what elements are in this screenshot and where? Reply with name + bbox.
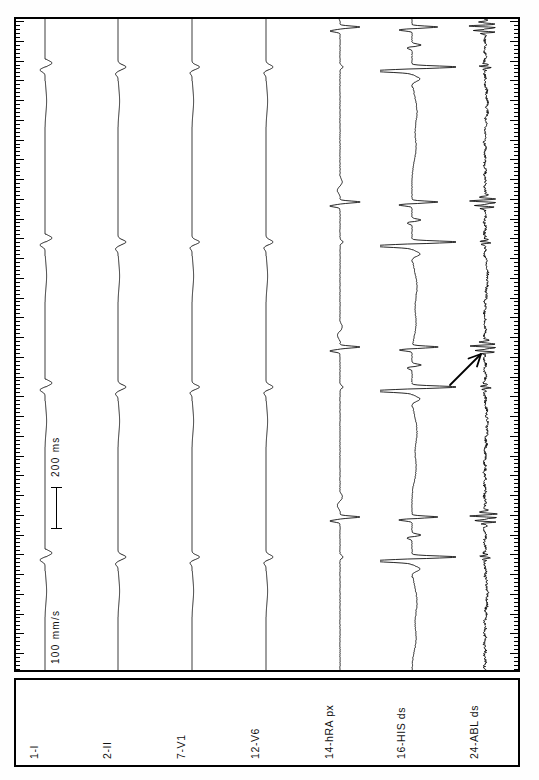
ruler-tick [514, 621, 518, 622]
trace-path-ch4 [264, 19, 273, 670]
ruler-tick [510, 199, 518, 200]
ruler-tick [514, 562, 518, 563]
ruler-tick [510, 416, 518, 417]
ruler-tick [514, 369, 518, 370]
ruler-tick [514, 479, 518, 480]
ruler-tick [514, 523, 518, 524]
ruler-tick [514, 266, 518, 267]
ruler-tick [514, 412, 518, 413]
trace-lane-ch6 [380, 19, 456, 670]
ruler-tick [514, 341, 518, 342]
ruler-tick [514, 373, 518, 374]
time-scale-bar [56, 487, 57, 529]
ruler-tick [514, 286, 518, 287]
ruler-tick [514, 384, 518, 385]
ruler-tick [514, 602, 518, 603]
ruler-tick [514, 329, 518, 330]
ruler-tick [514, 519, 518, 520]
ruler-tick [514, 175, 518, 176]
ruler-tick [510, 515, 518, 516]
ruler-tick [514, 546, 518, 547]
ruler-tick [510, 278, 518, 279]
ruler-tick [514, 151, 518, 152]
ruler-tick [514, 222, 518, 223]
ruler-tick [514, 88, 518, 89]
ruler-tick [514, 25, 518, 26]
ruler-tick [514, 305, 518, 306]
ruler-tick [510, 377, 518, 378]
ruler-tick [514, 262, 518, 263]
trace-lane-ch3 [164, 19, 226, 670]
ruler-tick [510, 100, 518, 101]
ruler-tick [514, 226, 518, 227]
ruler-tick [514, 155, 518, 156]
ruler-tick [514, 246, 518, 247]
ruler-tick [514, 96, 518, 97]
ruler-tick [514, 503, 518, 504]
ruler-tick [514, 606, 518, 607]
ruler-tick [514, 590, 518, 591]
ruler-tick [514, 610, 518, 611]
ruler-tick [514, 566, 518, 567]
ruler-tick [514, 669, 518, 670]
ruler-tick [514, 215, 518, 216]
ruler-tick [514, 649, 518, 650]
ruler-tick [514, 617, 518, 618]
ruler-tick [514, 570, 518, 571]
paper-speed-label: 100 mm/s [50, 610, 61, 664]
ruler-tick [514, 65, 518, 66]
ruler-tick [514, 452, 518, 453]
ruler-tick [514, 463, 518, 464]
chart-frame: 100 mm/s 200 ms [14, 17, 520, 672]
ruler-tick [510, 535, 518, 536]
ruler-tick [514, 499, 518, 500]
ruler-tick [514, 191, 518, 192]
ruler-tick [514, 582, 518, 583]
ruler-tick [514, 345, 518, 346]
ruler-tick [510, 219, 518, 220]
ruler-tick [514, 301, 518, 302]
ruler-tick [514, 108, 518, 109]
trace-path-ch3 [190, 19, 199, 670]
ruler-tick [514, 392, 518, 393]
ruler-tick [514, 538, 518, 539]
time-scale-label: 200 ms [50, 436, 61, 477]
trace-path-ch2 [116, 19, 126, 670]
ruler-tick [514, 242, 518, 243]
ruler-tick [514, 250, 518, 251]
channel-label-ch2: 2-II [101, 741, 113, 759]
ruler-tick [514, 29, 518, 30]
ruler-tick [514, 313, 518, 314]
ruler-tick [514, 361, 518, 362]
ruler-tick [514, 586, 518, 587]
ruler-tick [514, 104, 518, 105]
ruler-tick [514, 211, 518, 212]
ruler-tick [514, 187, 518, 188]
ruler-tick [514, 147, 518, 148]
ruler-tick [510, 179, 518, 180]
ruler-tick [510, 317, 518, 318]
ruler-tick [514, 254, 518, 255]
trace-lane-ch1 [16, 19, 78, 670]
ruler-tick [514, 203, 518, 204]
ruler-tick [514, 195, 518, 196]
trace-lane-ch5 [310, 19, 376, 670]
ruler-tick [514, 144, 518, 145]
ruler-tick [510, 436, 518, 437]
ruler-tick [514, 124, 518, 125]
ruler-tick [510, 298, 518, 299]
ruler-tick [510, 140, 518, 141]
ruler-tick [514, 424, 518, 425]
ruler-tick [510, 554, 518, 555]
ruler-tick [514, 487, 518, 488]
ruler-tick [510, 21, 518, 22]
ruler-tick [514, 542, 518, 543]
ruler-tick [510, 396, 518, 397]
ruler-tick [510, 633, 518, 634]
trace-path-ch1 [40, 19, 52, 670]
ruler-tick [514, 163, 518, 164]
ep-recording-page: 100 mm/s 200 ms 1-I2-II7-V112-V614-hRA p… [0, 0, 539, 780]
ruler-tick [514, 230, 518, 231]
ruler-tick [514, 290, 518, 291]
ruler-tick [510, 653, 518, 654]
